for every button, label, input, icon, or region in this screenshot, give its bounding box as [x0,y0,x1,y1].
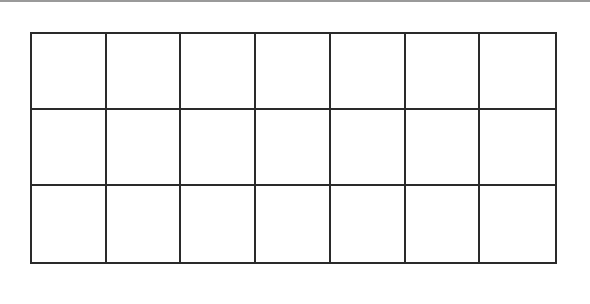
grid-cell [107,110,182,186]
grid-cell [480,186,555,262]
grid-cell [480,34,555,110]
grid-cell [32,186,107,262]
grid-cell [32,34,107,110]
grid-cell [331,34,406,110]
grid-cell [181,34,256,110]
grid-cell [32,110,107,186]
grid-cell [331,186,406,262]
grid-cell [256,110,331,186]
grid-cell [480,110,555,186]
grid-cell [256,34,331,110]
grid-cell [331,110,406,186]
grid-cell [406,34,481,110]
empty-grid-table [30,32,557,264]
grid-cell [181,110,256,186]
grid-cell [107,186,182,262]
grid-cell [406,110,481,186]
top-border-line [0,0,590,2]
grid-cell [256,186,331,262]
grid-cell [406,186,481,262]
grid-cell [181,186,256,262]
grid-cell [107,34,182,110]
